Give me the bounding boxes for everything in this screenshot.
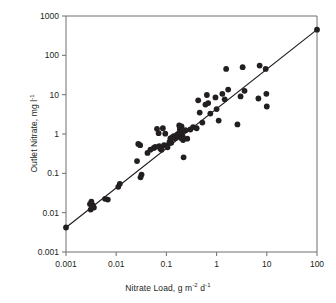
y-axis-title-sup1: -1 (29, 94, 35, 100)
data-point (255, 96, 261, 102)
y-tick-label: 1000 (40, 11, 59, 21)
data-point (199, 120, 205, 126)
data-point (117, 181, 123, 187)
data-point (204, 92, 210, 98)
x-axis-title-mid: d (198, 283, 205, 293)
data-point (235, 122, 241, 128)
data-point (63, 225, 69, 231)
x-tick-label: 1 (214, 259, 219, 269)
data-point (137, 142, 143, 148)
x-axis-ticks: 0.0010.010.1110100 (55, 252, 324, 269)
data-point (205, 100, 211, 106)
data-point (222, 96, 228, 102)
data-point (314, 27, 320, 33)
x-tick-label: 10 (262, 259, 272, 269)
data-point (223, 66, 229, 72)
y-tick-label: 10 (50, 90, 60, 100)
data-point (134, 158, 140, 164)
data-point (216, 118, 222, 124)
y-axis-title-main: Outlet Nitrate, mg l (29, 100, 39, 173)
y-axis-ticks: 0.0010.010.11101001000 (38, 11, 66, 257)
data-point (156, 130, 162, 136)
data-point (219, 91, 225, 97)
data-point (105, 197, 111, 203)
data-point (238, 94, 244, 100)
x-tick-label: 0.001 (55, 259, 77, 269)
y-tick-label: 100 (45, 50, 59, 60)
y-tick-label: 1 (54, 129, 59, 139)
x-tick-label: 0.1 (160, 259, 172, 269)
data-point (207, 111, 213, 117)
y-tick-label: 0.1 (47, 168, 59, 178)
data-point (160, 125, 166, 131)
data-point (264, 104, 270, 110)
data-point (165, 144, 171, 150)
x-axis-title: Nitrate Load, g m-2 d-1 (0, 282, 336, 293)
data-point (213, 95, 219, 101)
x-axis-title-sup2: -1 (205, 282, 211, 288)
data-point (183, 127, 189, 133)
y-tick-label: 0.01 (42, 208, 59, 218)
y-tick-label: 0.001 (38, 247, 60, 257)
x-axis-title-main: Nitrate Load, g m (125, 283, 192, 293)
y-axis-title: Outlet Nitrate, mg l-1 (29, 33, 40, 233)
scatter-chart: 0.0010.010.11101001000 0.0010.010.111010… (0, 0, 336, 303)
data-point (139, 172, 145, 178)
data-point (225, 87, 231, 93)
data-point (162, 131, 168, 137)
plot-frame (66, 16, 317, 252)
data-point (195, 97, 201, 103)
x-tick-label: 100 (310, 259, 324, 269)
data-point (240, 64, 246, 70)
data-point (257, 63, 263, 69)
data-point (263, 91, 269, 97)
data-point (184, 136, 190, 142)
data-point (168, 140, 174, 146)
data-point (214, 106, 220, 112)
data-point (194, 125, 200, 131)
data-point (181, 154, 187, 160)
plot-area: 0.0010.010.11101001000 0.0010.010.111010… (0, 0, 336, 303)
data-point (263, 66, 269, 72)
data-point (242, 88, 248, 94)
x-tick-label: 0.01 (108, 259, 125, 269)
data-point (197, 110, 203, 116)
data-point (91, 205, 97, 211)
